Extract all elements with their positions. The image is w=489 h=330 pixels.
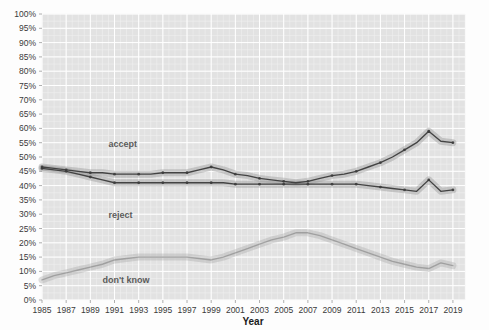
x-axis-tick-label: 1989	[81, 305, 100, 315]
data-point-marker	[89, 171, 92, 174]
data-point-marker	[89, 176, 92, 179]
y-axis-tick-label: 45%	[19, 166, 36, 176]
data-point-marker	[427, 178, 430, 181]
data-point-marker	[355, 170, 358, 173]
data-point-marker	[379, 161, 382, 164]
x-axis-tick-label: 1991	[105, 305, 124, 315]
data-point-marker	[258, 177, 261, 180]
data-point-marker	[41, 167, 44, 170]
y-axis-tick-label: 60%	[19, 123, 36, 133]
y-axis-tick-label: 90%	[19, 38, 36, 48]
x-axis-tick-labels: 1985198719891991199319951997199920012003…	[33, 305, 463, 315]
data-point-marker	[379, 186, 382, 189]
x-axis-tick-label: 2009	[323, 305, 342, 315]
data-point-marker	[282, 183, 285, 186]
data-point-marker	[113, 173, 116, 176]
y-axis-tick-label: 20%	[19, 238, 36, 248]
grid-lines-horizontal	[42, 14, 465, 300]
x-axis-tick-label: 2001	[226, 305, 245, 315]
x-axis-tick-label: 1993	[129, 305, 148, 315]
y-axis-tick-label: 10%	[19, 266, 36, 276]
x-axis-tick-label: 2007	[298, 305, 317, 315]
y-axis-tick-label: 55%	[19, 138, 36, 148]
data-point-marker	[137, 181, 140, 184]
data-point-marker	[210, 181, 213, 184]
x-axis-tick-label: 2015	[395, 305, 414, 315]
data-point-marker	[452, 141, 455, 144]
data-point-marker	[137, 173, 140, 176]
data-point-marker	[452, 188, 455, 191]
x-axis-tick-label: 2005	[274, 305, 293, 315]
x-axis-tick-label: 2011	[347, 305, 366, 315]
y-axis-tick-label: 25%	[19, 224, 36, 234]
series-label-don-t-know: don't know	[102, 275, 150, 285]
y-axis-tick-marks	[39, 14, 42, 300]
x-axis-tick-label: 2013	[371, 305, 390, 315]
data-point-marker	[186, 181, 189, 184]
y-axis-tick-label: 80%	[19, 66, 36, 76]
y-axis-tick-label: 30%	[19, 209, 36, 219]
series-label-reject: reject	[108, 210, 132, 220]
y-axis-tick-labels: 0%5%10%15%20%25%30%35%40%45%50%55%60%65%…	[14, 9, 36, 305]
data-point-marker	[161, 171, 164, 174]
data-point-marker	[306, 183, 309, 186]
data-point-marker	[258, 183, 261, 186]
y-axis-tick-label: 15%	[19, 252, 36, 262]
data-point-marker	[113, 181, 116, 184]
x-axis-title: Year	[242, 316, 263, 327]
x-axis-tick-label: 1987	[57, 305, 76, 315]
line-chart-svg: 0%5%10%15%20%25%30%35%40%45%50%55%60%65%…	[0, 0, 489, 330]
y-axis-tick-label: 40%	[19, 181, 36, 191]
y-axis-tick-label: 100%	[14, 9, 36, 19]
data-point-marker	[234, 173, 237, 176]
chart-container: 0%5%10%15%20%25%30%35%40%45%50%55%60%65%…	[0, 0, 489, 330]
x-axis-tick-label: 1995	[153, 305, 172, 315]
x-axis-tick-label: 1997	[178, 305, 197, 315]
y-axis-tick-label: 75%	[19, 81, 36, 91]
data-point-marker	[161, 181, 164, 184]
x-axis-tick-label: 2019	[443, 305, 462, 315]
y-axis-tick-label: 50%	[19, 152, 36, 162]
y-axis-tick-label: 35%	[19, 195, 36, 205]
data-point-marker	[403, 188, 406, 191]
data-point-marker	[306, 180, 309, 183]
y-axis-tick-label: 5%	[24, 281, 37, 291]
data-point-marker	[355, 183, 358, 186]
y-axis-tick-label: 70%	[19, 95, 36, 105]
x-axis-tick-label: 2017	[419, 305, 438, 315]
y-axis-tick-label: 85%	[19, 52, 36, 62]
data-point-marker	[186, 171, 189, 174]
data-point-marker	[331, 174, 334, 177]
y-axis-tick-label: 95%	[19, 23, 36, 33]
data-point-marker	[65, 170, 68, 173]
series-label-accept: accept	[108, 139, 137, 149]
data-point-marker	[331, 183, 334, 186]
x-axis-tick-label: 1985	[33, 305, 52, 315]
x-axis-tick-label: 2003	[250, 305, 269, 315]
y-axis-tick-label: 0%	[24, 295, 37, 305]
data-point-marker	[403, 148, 406, 151]
data-point-marker	[210, 166, 213, 169]
y-axis-tick-label: 65%	[19, 109, 36, 119]
data-point-marker	[427, 130, 430, 133]
data-point-marker	[282, 180, 285, 183]
data-point-marker	[234, 183, 237, 186]
x-axis-tick-label: 1999	[202, 305, 221, 315]
